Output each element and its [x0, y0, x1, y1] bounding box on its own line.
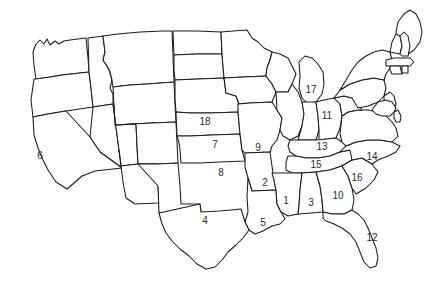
- state-number-9: 9: [255, 143, 261, 153]
- state-number-11: 11: [322, 111, 332, 121]
- state-delaware: [394, 110, 401, 122]
- state-number-16: 16: [351, 173, 362, 183]
- state-oklahoma: [177, 134, 245, 163]
- state-number-3: 3: [308, 198, 314, 208]
- state-number-13: 13: [316, 142, 327, 152]
- us-map-outline: [0, 0, 444, 286]
- state-number-10: 10: [332, 191, 343, 201]
- state-rhode-island: [402, 66, 408, 73]
- state-montana: [103, 31, 174, 87]
- us-map-figure: 123456789101112131415161718: [0, 0, 444, 286]
- state-minnesota: [221, 30, 272, 78]
- state-connecticut: [390, 66, 402, 74]
- state-oregon: [31, 72, 93, 117]
- state-number-1: 1: [283, 196, 289, 206]
- state-number-18: 18: [199, 117, 210, 127]
- state-number-15: 15: [310, 160, 321, 170]
- state-south-dakota: [174, 54, 224, 80]
- state-number-7: 7: [212, 140, 218, 150]
- state-north-dakota: [173, 31, 222, 55]
- state-number-2: 2: [262, 178, 268, 188]
- state-number-6: 6: [37, 151, 43, 161]
- state-texas: [159, 204, 249, 269]
- state-number-8: 8: [218, 168, 224, 178]
- state-number-14: 14: [366, 152, 377, 162]
- state-michigan: [299, 56, 324, 104]
- state-shape-group: [31, 10, 422, 269]
- state-massachusetts: [386, 58, 414, 66]
- state-number-4: 4: [202, 216, 208, 226]
- state-wyoming: [113, 82, 176, 125]
- state-number-5: 5: [260, 218, 266, 228]
- state-number-12: 12: [366, 233, 377, 243]
- state-number-17: 17: [305, 85, 316, 95]
